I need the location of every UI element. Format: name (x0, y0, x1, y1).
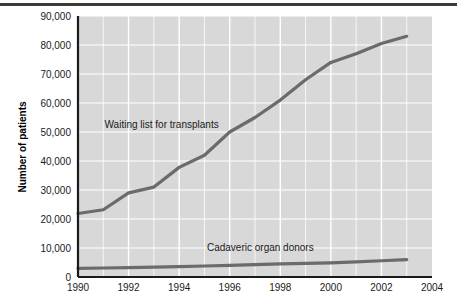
x-tick-label: 1990 (67, 282, 90, 293)
y-tick-label: 20,000 (40, 214, 71, 225)
y-tick-label: 0 (65, 272, 71, 283)
series-label-1: Waiting list for transplants (105, 119, 219, 130)
x-tick-label: 1992 (117, 282, 140, 293)
y-tick-label: 50,000 (40, 127, 71, 138)
x-axis-tick-labels: 19901992199419961998200020022004 (67, 282, 444, 293)
y-axis-tick-labels: 010,00020,00030,00040,00050,00060,00070,… (40, 11, 71, 283)
y-tick-label: 60,000 (40, 98, 71, 109)
y-tick-label: 30,000 (40, 185, 71, 196)
x-tick-label: 2002 (370, 282, 393, 293)
series-label-2: Cadaveric organ donors (207, 242, 314, 253)
y-axis-title: Number of patients (17, 101, 28, 193)
y-tick-label: 90,000 (40, 11, 71, 22)
y-tick-label: 40,000 (40, 156, 71, 167)
x-tick-label: 1994 (168, 282, 191, 293)
y-tick-label: 10,000 (40, 243, 71, 254)
x-tick-label: 1996 (219, 282, 242, 293)
x-tick-label: 1998 (269, 282, 292, 293)
chart-figure: 010,00020,00030,00040,00050,00060,00070,… (0, 0, 457, 302)
y-tick-label: 80,000 (40, 40, 71, 51)
x-tick-label: 2000 (320, 282, 343, 293)
y-axis-title-text: Number of patients (17, 101, 28, 193)
x-tick-label: 2004 (421, 282, 444, 293)
y-tick-label: 70,000 (40, 69, 71, 80)
line-chart: 010,00020,00030,00040,00050,00060,00070,… (0, 0, 457, 302)
